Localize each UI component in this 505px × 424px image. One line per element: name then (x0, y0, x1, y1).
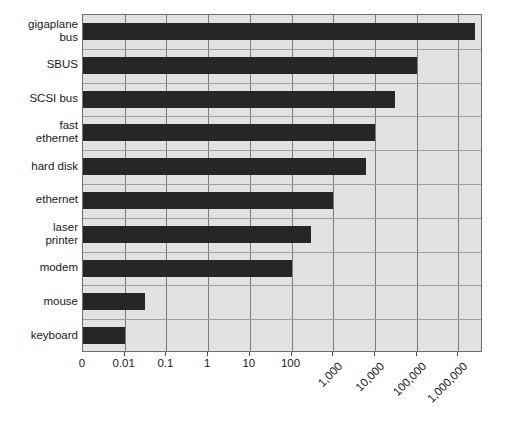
bar (83, 260, 292, 277)
tick-label: 0 (79, 357, 85, 369)
category-label-line: laser (0, 221, 78, 234)
bar-row (83, 319, 481, 352)
category-label: fastethernet (0, 119, 78, 145)
tick-mark (332, 352, 333, 356)
bar-row (83, 285, 481, 319)
tick-label: 0.1 (157, 357, 173, 369)
category-label: gigaplanebus (0, 18, 78, 44)
category-label-line: bus (0, 31, 78, 44)
category-label: SBUS (0, 58, 78, 71)
category-label-line: gigaplane (0, 18, 78, 31)
category-label: hard disk (0, 160, 78, 173)
bar-chart: gigaplanebusSBUSSCSI busfastethernethard… (0, 0, 505, 424)
category-label-line: printer (0, 234, 78, 247)
bar (83, 192, 333, 209)
bar-row (83, 49, 481, 83)
tick-mark (291, 352, 292, 356)
tick-mark (374, 352, 375, 356)
category-label: keyboard (0, 329, 78, 342)
tick-mark (457, 352, 458, 356)
category-label: mouse (0, 295, 78, 308)
category-label-line: keyboard (0, 329, 78, 342)
category-label-line: SCSI bus (0, 92, 78, 105)
bar (83, 91, 395, 108)
tick-label: 0.01 (112, 357, 134, 369)
category-label-line: ethernet (0, 193, 78, 206)
category-label: ethernet (0, 193, 78, 206)
bar-row (83, 150, 481, 184)
bar-row (83, 218, 481, 252)
category-label-line: fast (0, 119, 78, 132)
bar (83, 158, 366, 175)
bar (83, 23, 475, 40)
category-label-line: ethernet (0, 132, 78, 145)
category-label-line: hard disk (0, 160, 78, 173)
tick-label: 1,000,000 (425, 360, 470, 405)
bar-row (83, 15, 481, 49)
tick-mark (124, 352, 125, 356)
category-label-line: SBUS (0, 58, 78, 71)
tick-mark (249, 352, 250, 356)
tick-label: 1,000 (316, 360, 345, 389)
bar-row (83, 184, 481, 218)
bar (83, 57, 417, 74)
bar (83, 124, 375, 141)
category-label: laserprinter (0, 221, 78, 247)
bar (83, 327, 125, 344)
tick-mark (416, 352, 417, 356)
tick-label: 1 (204, 357, 210, 369)
tick-mark (207, 352, 208, 356)
category-label-line: modem (0, 261, 78, 274)
bar (83, 226, 311, 243)
tick-label: 10,000 (353, 360, 386, 393)
bar-row (83, 252, 481, 286)
tick-label: 100 (281, 357, 300, 369)
bar (83, 293, 145, 310)
tick-label: 100,000 (390, 360, 428, 398)
category-label: SCSI bus (0, 92, 78, 105)
tick-mark (165, 352, 166, 356)
bar-row (83, 116, 481, 150)
tick-label: 10 (242, 357, 255, 369)
plot-area (82, 14, 482, 352)
bar-row (83, 83, 481, 117)
category-label-line: mouse (0, 295, 78, 308)
category-label: modem (0, 261, 78, 274)
